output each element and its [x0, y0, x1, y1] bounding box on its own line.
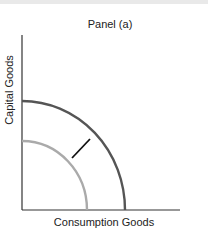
- y-axis-label: Capital Goods: [3, 45, 15, 135]
- shift-arrow: [72, 139, 90, 158]
- x-axis-label: Consumption Goods: [0, 216, 208, 228]
- ppf-plot: [0, 0, 208, 248]
